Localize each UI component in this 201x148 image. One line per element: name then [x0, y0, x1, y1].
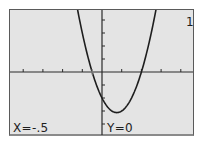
cursor-x-readout: X=-.5 — [13, 122, 49, 134]
equation-number: 1 — [186, 16, 194, 28]
cursor-y-readout: Y=0 — [107, 122, 133, 134]
trace-cursor-icon — [89, 69, 95, 75]
